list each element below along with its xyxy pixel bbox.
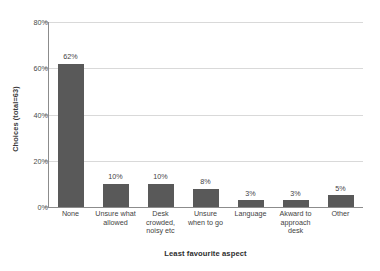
bar[interactable] — [148, 184, 174, 207]
x-category-label-line: Other — [318, 210, 363, 219]
x-category-label-line: when to go — [183, 219, 228, 228]
bar-value-label: 10% — [108, 172, 122, 181]
bar[interactable] — [103, 184, 129, 207]
bar-value-label: 3% — [290, 189, 300, 198]
bar[interactable] — [328, 195, 354, 207]
y-tick-label: 20% — [4, 156, 48, 165]
x-category-label: None — [48, 210, 93, 219]
bar-slot: 10% — [138, 22, 183, 207]
x-axis-title: Least favourite aspect — [48, 249, 363, 258]
y-tick-label: 40% — [4, 110, 48, 119]
bar-slot: 3% — [273, 22, 318, 207]
bar-value-label: 8% — [200, 177, 210, 186]
bar-value-label: 10% — [153, 172, 167, 181]
y-tick-label: 0% — [4, 203, 48, 212]
y-axis: 0%20%40%60%80% — [0, 0, 48, 271]
x-category-label: Deskcrowded,noisy etc — [138, 210, 183, 236]
bar-slot: 3% — [228, 22, 273, 207]
bar-value-label: 62% — [63, 52, 77, 61]
x-category-label: Other — [318, 210, 363, 219]
x-category-label-line: Language — [228, 210, 273, 219]
x-axis-line — [48, 207, 363, 208]
y-tick-label: 80% — [4, 18, 48, 27]
x-category-label-line: noisy etc — [138, 227, 183, 236]
x-category-label-line: desk — [273, 227, 318, 236]
x-category-label-line: None — [48, 210, 93, 219]
x-axis-labels: NoneUnsure whatallowedDeskcrowded,noisy … — [48, 210, 363, 250]
bar-value-label: 3% — [245, 189, 255, 198]
x-category-label: Akward toapproachdesk — [273, 210, 318, 236]
x-category-label-line: allowed — [93, 219, 138, 228]
bar-slot: 5% — [318, 22, 363, 207]
x-category-label: Unsurewhen to go — [183, 210, 228, 227]
bar-slot: 62% — [48, 22, 93, 207]
bar[interactable] — [58, 64, 84, 207]
bar-slot: 8% — [183, 22, 228, 207]
bar[interactable] — [283, 200, 309, 207]
bar[interactable] — [238, 200, 264, 207]
x-category-label: Language — [228, 210, 273, 219]
bar-slot: 10% — [93, 22, 138, 207]
bar-chart: Choices (total=63) 0%20%40%60%80% 62%10%… — [0, 0, 380, 271]
bars-layer: 62%10%10%8%3%3%5% — [48, 22, 363, 207]
x-category-label: Unsure whatallowed — [93, 210, 138, 227]
y-tick-label: 60% — [4, 64, 48, 73]
bar[interactable] — [193, 189, 219, 208]
bar-value-label: 5% — [335, 184, 345, 193]
